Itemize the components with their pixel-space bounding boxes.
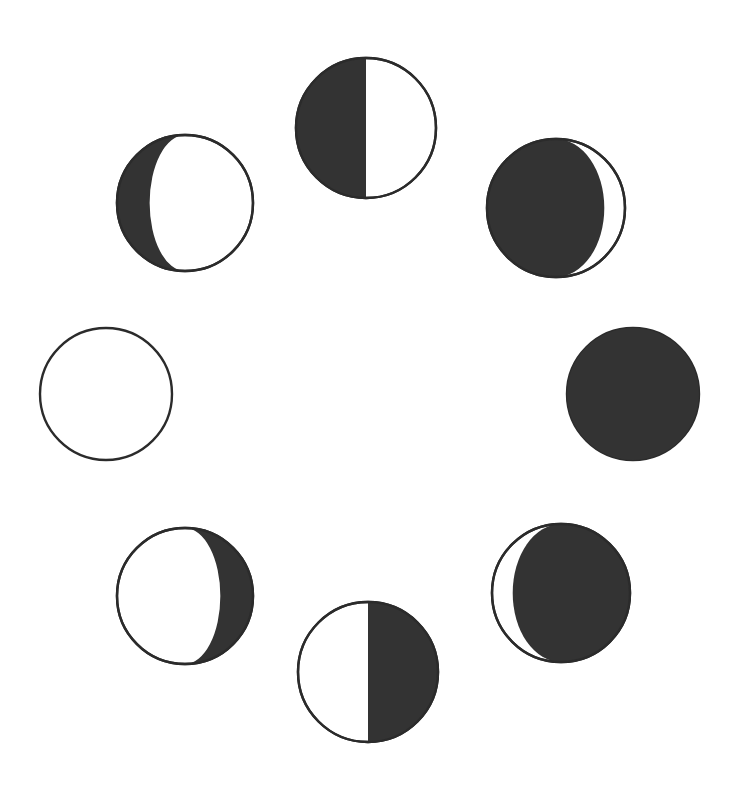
moon-phase-waning-gibbous: Waning Gibbous (117, 528, 253, 664)
moon-shadow-first-quarter (296, 58, 366, 198)
moon-phase-waxing-gibbous: Waxing Gibbous (117, 135, 253, 271)
moon-phase-last-quarter: Last Quarter (298, 602, 438, 742)
moon-phase-new-moon: New Moon (567, 328, 699, 460)
moon-shadow-last-quarter (368, 602, 438, 742)
moon-phase-waning-crescent: Waning Crescent (492, 524, 630, 662)
moon-phase-first-quarter: First Quarter (296, 58, 436, 198)
moon-phase-full-moon: Full Moon (40, 328, 172, 460)
moon-shadow-waxing-crescent (487, 139, 604, 277)
moon-disc-outline-full-moon (40, 328, 172, 460)
moon-shadow-waning-crescent (513, 524, 630, 662)
moon-shadow-new-moon (567, 328, 699, 460)
moon-phase-waxing-crescent: Waxing Crescent (487, 139, 625, 277)
moon-phase-figure: Full MoonWaning GibbousLast QuarterWanin… (0, 0, 740, 790)
moon-phase-ring: Full MoonWaning GibbousLast QuarterWanin… (0, 0, 740, 790)
